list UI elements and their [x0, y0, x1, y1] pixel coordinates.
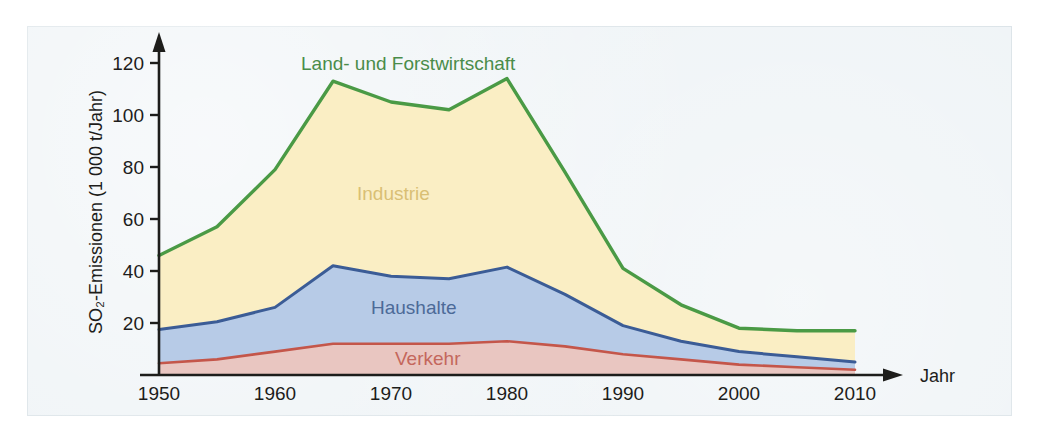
series-label-verkehr: Verkehr: [395, 348, 461, 369]
x-axis-arrow: [883, 369, 903, 382]
x-tick-label-2010: 2010: [834, 383, 876, 404]
x-tick-label-1950: 1950: [138, 383, 180, 404]
x-axis-title: Jahr: [920, 366, 955, 386]
y-axis-arrow: [153, 32, 166, 52]
y-axis-title: SO₂-Emissionen (1 000 t/Jahr): [86, 90, 106, 334]
x-tick-label-1970: 1970: [370, 383, 412, 404]
chart-svg: 20 40 60 80 100 120 1950 1960 1970 1980 …: [0, 0, 1041, 439]
series-label-land-und-forstwirtschaft: Land- und Forstwirtschaft: [301, 53, 516, 74]
so2-emissions-area-chart: 20 40 60 80 100 120 1950 1960 1970 1980 …: [0, 0, 1041, 439]
screenshot-root: 20 40 60 80 100 120 1950 1960 1970 1980 …: [0, 0, 1041, 439]
x-tick-label-1990: 1990: [602, 383, 644, 404]
y-tick-label-100: 100: [112, 105, 144, 126]
y-tick-label-40: 40: [123, 261, 144, 282]
x-tick-label-1960: 1960: [254, 383, 296, 404]
y-tick-label-120: 120: [112, 53, 144, 74]
y-tick-label-20: 20: [123, 313, 144, 334]
x-tick-label-2000: 2000: [718, 383, 760, 404]
series-label-haushalte: Haushalte: [371, 297, 457, 318]
series-label-industrie: Industrie: [357, 183, 430, 204]
y-tick-label-60: 60: [123, 209, 144, 230]
y-tick-marks: [150, 63, 159, 323]
x-tick-label-1980: 1980: [486, 383, 528, 404]
y-tick-label-80: 80: [123, 157, 144, 178]
